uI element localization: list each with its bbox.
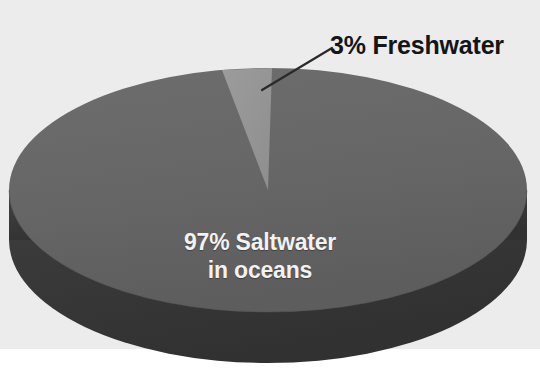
saltwater-label: 97% Saltwaterin oceans: [120, 228, 400, 284]
pie-chart-figure: 3% Freshwater 97% Saltwaterin oceans: [0, 0, 540, 374]
saltwater-label-line2: in oceans: [120, 256, 400, 284]
saltwater-label-line1: 97% Saltwater: [184, 229, 336, 255]
freshwater-label: 3% Freshwater: [330, 28, 504, 62]
